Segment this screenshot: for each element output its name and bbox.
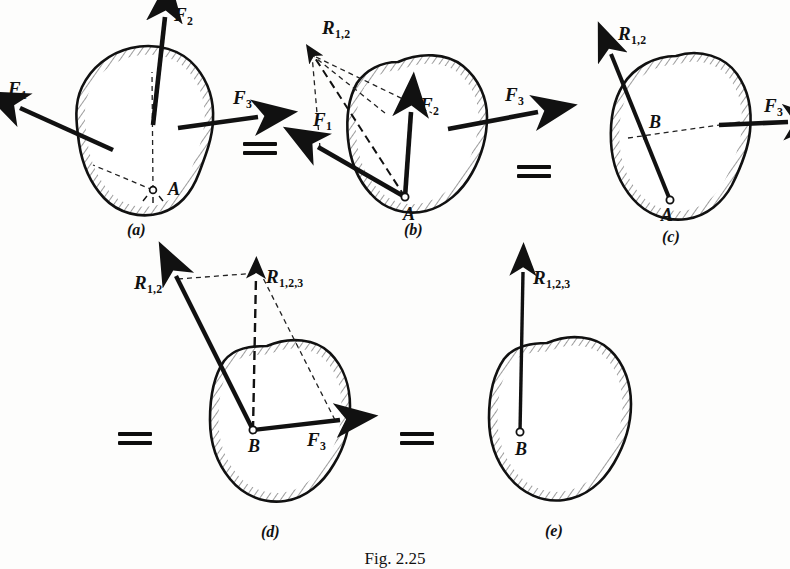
figure-caption: Fig. 2.25 <box>0 549 790 569</box>
label-f3-sub: 3 <box>246 98 252 111</box>
label-f2-base: F <box>174 4 187 25</box>
point-b-marker-panel-e <box>516 428 523 435</box>
label-f2-sub: 2 <box>187 15 193 28</box>
label-f3c-sub: 3 <box>777 106 783 119</box>
label-r12-panel-d: R1,2 <box>134 273 162 292</box>
equals-b-c <box>517 165 551 178</box>
label-f3-panel-c: F3 <box>764 96 783 115</box>
label-f3b-base: F <box>505 84 518 105</box>
point-b-marker-panel-c <box>643 136 647 140</box>
label-r12-base: R <box>322 17 335 38</box>
panel-e-graphics <box>489 272 631 501</box>
label-r12-sub: 1,2 <box>335 28 350 41</box>
label-f3-base: F <box>233 87 246 108</box>
panel-b-graphics <box>312 55 538 213</box>
equals-a-b <box>243 142 277 155</box>
label-r123e-sub: 1,2,3 <box>546 278 571 291</box>
label-point-a-panel-c: A <box>661 206 673 224</box>
label-r123e-base: R <box>533 267 546 288</box>
panel-label-b: (b) <box>404 221 423 239</box>
label-r12-panel-b: R1,2 <box>322 18 350 37</box>
point-b-marker-panel-d <box>249 426 256 433</box>
label-f3d-sub: 3 <box>320 440 326 453</box>
label-f2b-base: F <box>420 94 433 115</box>
label-point-a-panel-a: A <box>168 180 180 198</box>
label-r123-panel-d: R1,2,3 <box>266 267 303 286</box>
panel-d-graphics <box>176 273 350 502</box>
label-f1-panel-a: F1 <box>8 79 27 98</box>
label-f3-panel-a: F3 <box>233 88 252 107</box>
label-f2-panel-b: F2 <box>420 95 439 114</box>
label-r123d-base: R <box>266 266 279 287</box>
point-a-marker-panel-b <box>401 193 408 200</box>
label-f3d-base: F <box>307 429 320 450</box>
panel-label-c: (c) <box>662 228 680 246</box>
panel-label-a: (a) <box>127 221 146 239</box>
label-f3-panel-b: F3 <box>505 85 524 104</box>
label-f3c-base: F <box>764 95 777 116</box>
panel-c-graphics <box>611 53 788 220</box>
panel-label-d: (d) <box>261 523 280 541</box>
label-r12c-base: R <box>618 23 631 44</box>
point-a-marker-panel-c <box>666 196 673 203</box>
label-f1b-sub: 1 <box>326 120 332 133</box>
equals-c-d <box>118 432 152 445</box>
label-f3b-sub: 3 <box>518 95 524 108</box>
label-f2-panel-a: F2 <box>174 5 193 24</box>
label-r12d-base: R <box>134 272 147 293</box>
label-point-b-panel-d: B <box>248 437 260 455</box>
equals-d-e <box>400 432 434 445</box>
label-point-b-panel-e: B <box>515 440 527 458</box>
label-r12d-sub: 1,2 <box>147 283 162 296</box>
label-f1-sub: 1 <box>21 89 27 102</box>
panel-label-e: (e) <box>545 522 563 540</box>
panel-a-graphics <box>20 17 258 215</box>
label-r12c-sub: 1,2 <box>631 34 646 47</box>
label-f1-panel-b: F1 <box>313 110 332 129</box>
vector-f3-panel-c <box>719 122 788 125</box>
label-f3-panel-d: F3 <box>307 430 326 449</box>
label-r123d-sub: 1,2,3 <box>279 277 304 290</box>
label-r123-panel-e: R1,2,3 <box>533 268 570 287</box>
label-f1b-base: F <box>313 109 326 130</box>
label-point-b-panel-c: B <box>649 113 661 131</box>
label-f1-base: F <box>8 78 21 99</box>
label-r12-panel-c: R1,2 <box>618 24 646 43</box>
parallelogram-side-d-1 <box>178 273 258 279</box>
parallelogram-side-b-1 <box>312 55 320 148</box>
label-f2b-sub: 2 <box>433 105 439 118</box>
